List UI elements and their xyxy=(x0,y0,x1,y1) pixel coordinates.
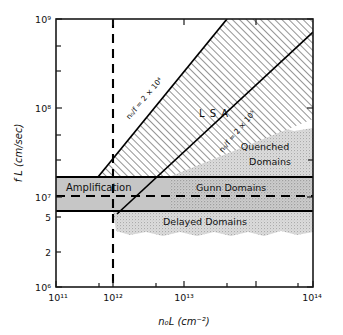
y-tick-label-2: 2 xyxy=(45,248,51,258)
figure-container: 10⁹ 10⁸ 10⁷ 5 2 10⁶ 10¹¹ 10¹² 10¹³ 10¹⁴ … xyxy=(0,0,343,335)
label-amplification: Amplification xyxy=(66,182,132,193)
x-axis-title: n₀L (cm⁻²) xyxy=(158,316,209,327)
label-gunn-domains: Gunn Domains xyxy=(196,182,266,193)
label-quenched-line2: Domains xyxy=(249,156,291,167)
y-tick-label-5: 5 xyxy=(45,213,51,223)
y-tick-label-1e8: 10⁸ xyxy=(35,103,51,114)
label-delayed-domains: Delayed Domains xyxy=(163,216,247,227)
y-tick-label-1e9: 10⁹ xyxy=(35,14,51,25)
mode-chart-svg: 10⁹ 10⁸ 10⁷ 5 2 10⁶ 10¹¹ 10¹² 10¹³ 10¹⁴ … xyxy=(0,0,343,335)
y-tick-label-1e7: 10⁷ xyxy=(35,192,51,203)
label-lsa: L S A xyxy=(199,108,229,119)
x-tick-label-1e13: 10¹³ xyxy=(174,292,194,303)
y-axis-title: f L (cm/sec) xyxy=(13,124,24,183)
x-tick-label-1e12: 10¹² xyxy=(103,292,123,303)
x-tick-label-1e14: 10¹⁴ xyxy=(302,292,322,303)
x-tick-label-1e11: 10¹¹ xyxy=(48,292,68,303)
label-quenched-line1: Quenched xyxy=(241,141,289,152)
